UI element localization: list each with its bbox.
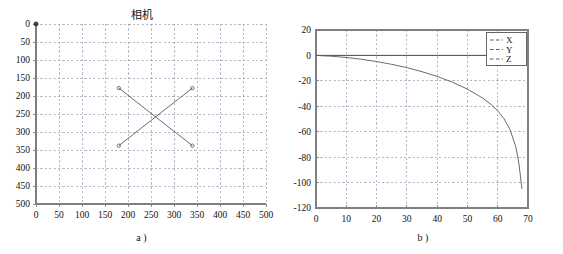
xtick-label-b: 10 (342, 214, 352, 224)
xtick-label-b: 30 (402, 214, 412, 224)
xtick-label-a: 250 (144, 210, 159, 220)
xtick-label-b: 20 (372, 214, 382, 224)
xtick-label-b: 70 (523, 214, 533, 224)
series-line-Z (316, 55, 522, 189)
ytick-label-b: -100 (294, 178, 312, 188)
ytick-label-a: 0 (25, 19, 30, 29)
xtick-label-a: 100 (75, 210, 90, 220)
ytick-label-a: 100 (16, 55, 31, 65)
chart-panel-a: 相机 0501001502002503003504004505000501001… (0, 0, 283, 254)
xtick-label-a: 500 (259, 210, 274, 220)
xtick-label-a: 450 (236, 210, 251, 220)
legend-label-X: X (506, 35, 513, 45)
data-point-marker-origin (34, 22, 38, 26)
ytick-label-b: -40 (298, 102, 311, 112)
plot-area-b: 010203040506070200-20-40-60-80-100-120XY… (283, 0, 563, 254)
xtick-label-b: 0 (314, 214, 319, 224)
panel-caption-b: b ) (283, 232, 563, 243)
figure-container: 相机 0501001502002503003504004505000501001… (0, 0, 563, 254)
ytick-label-a: 50 (21, 37, 31, 47)
ytick-label-a: 400 (16, 163, 31, 173)
ytick-label-b: -20 (298, 76, 311, 86)
xtick-label-a: 200 (121, 210, 136, 220)
xtick-label-a: 400 (213, 210, 228, 220)
xtick-label-a: 350 (190, 210, 205, 220)
xtick-label-a: 300 (167, 210, 182, 220)
xtick-label-a: 50 (54, 210, 64, 220)
ytick-label-b: 0 (306, 51, 311, 61)
xtick-label-b: 50 (463, 214, 473, 224)
ytick-label-b: -120 (294, 203, 312, 213)
ytick-label-b: -80 (298, 153, 311, 163)
plot-area-a: 0501001502002503003504004505000501001502… (0, 0, 283, 254)
ytick-label-a: 300 (16, 127, 31, 137)
xtick-label-b: 60 (493, 214, 503, 224)
xtick-label-b: 40 (432, 214, 442, 224)
ytick-label-a: 450 (16, 181, 31, 191)
ytick-label-b: -60 (298, 127, 311, 137)
legend-label-Y: Y (506, 45, 513, 55)
ytick-label-a: 350 (16, 145, 31, 155)
ytick-label-b: 20 (302, 25, 312, 35)
ytick-label-a: 200 (16, 91, 31, 101)
ytick-label-a: 150 (16, 73, 31, 83)
xtick-label-a: 0 (34, 210, 39, 220)
ytick-label-a: 500 (16, 199, 31, 209)
ytick-label-a: 250 (16, 109, 31, 119)
legend-b[interactable]: XYZ (486, 32, 526, 65)
xtick-label-a: 150 (98, 210, 113, 220)
panel-caption-a: a ) (0, 232, 283, 243)
chart-panel-b: 010203040506070200-20-40-60-80-100-120XY… (283, 0, 563, 254)
legend-label-Z: Z (506, 54, 512, 64)
